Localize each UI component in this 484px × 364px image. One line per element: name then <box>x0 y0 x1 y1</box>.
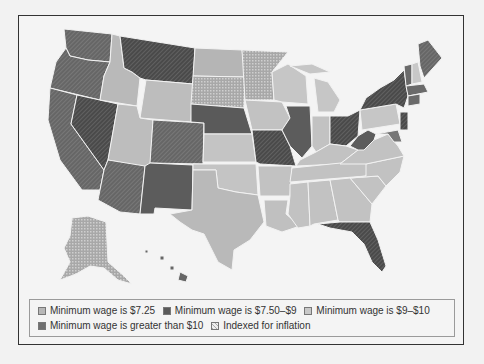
legend: Minimum wage is $7.25 Minimum wage is $7… <box>29 299 455 337</box>
legend-item-indexed: Indexed for inflation <box>211 318 310 333</box>
swatch-indexed-icon <box>211 322 219 330</box>
state-sd <box>191 76 245 108</box>
state-nm <box>140 163 193 214</box>
state-ak <box>60 216 132 284</box>
state-me <box>418 40 442 78</box>
legend-item-gt10: Minimum wage is greater than $10 <box>38 318 203 333</box>
state-vt <box>404 64 412 86</box>
legend-item-725: Minimum wage is $7.25 <box>38 303 155 318</box>
swatch-9-10-icon <box>304 307 312 315</box>
state-nj <box>400 112 408 130</box>
state-hi <box>145 250 188 282</box>
state-co <box>150 120 204 164</box>
legend-item-9-10: Minimum wage is $9–$10 <box>304 303 429 318</box>
state-wy <box>140 80 193 122</box>
swatch-725-icon <box>38 307 46 315</box>
state-ia <box>245 100 290 130</box>
state-ar <box>258 166 292 196</box>
state-nd <box>193 48 245 77</box>
state-ks <box>203 134 256 162</box>
swatch-gt10-icon <box>38 322 46 330</box>
state-ct <box>408 94 420 106</box>
swatch-750-9-icon <box>163 307 171 315</box>
legend-item-750-9: Minimum wage is $7.50–$9 <box>163 303 297 318</box>
state-fl <box>318 222 386 272</box>
state-ny <box>360 70 408 110</box>
state-az <box>98 160 145 214</box>
